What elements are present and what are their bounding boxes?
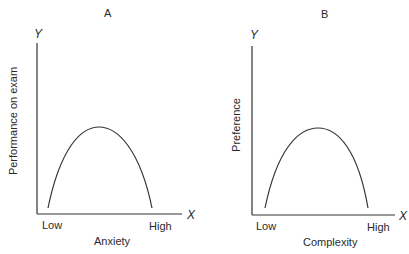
panel-b-x-label: Complexity <box>303 236 357 248</box>
panel-a-x-letter: X <box>187 208 195 222</box>
panel-b-y-label: Preference <box>230 65 242 185</box>
panel-a-curve <box>48 127 152 208</box>
panel-a-axes <box>37 43 182 214</box>
panel-b-axes <box>252 46 395 215</box>
panel-a-x-label: Anxiety <box>94 235 130 247</box>
panel-b-y-letter: Y <box>250 28 258 42</box>
panel-a-title: A <box>104 7 111 19</box>
panel-b-curve <box>265 128 368 208</box>
panel-a-y-label: Performance on exam <box>7 61 19 181</box>
panel-b-low-label: Low <box>256 220 276 232</box>
panel-a-y-letter: Y <box>34 27 42 41</box>
panel-b-title: B <box>321 8 328 20</box>
panel-a-low-label: Low <box>42 219 62 231</box>
diagram-canvas <box>0 0 409 254</box>
panel-b-high-label: High <box>367 221 390 233</box>
panel-a-high-label: High <box>149 220 172 232</box>
panel-b-x-letter: X <box>399 209 407 223</box>
